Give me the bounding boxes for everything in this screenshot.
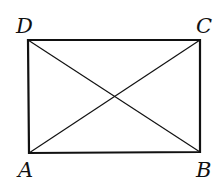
vertex-label-a: A bbox=[16, 158, 33, 182]
vertex-label-c: C bbox=[196, 14, 212, 38]
vertex-label-b: B bbox=[195, 158, 211, 182]
vertex-label-d: D bbox=[15, 14, 33, 38]
rectangle-diagram: D C A B bbox=[0, 0, 220, 193]
